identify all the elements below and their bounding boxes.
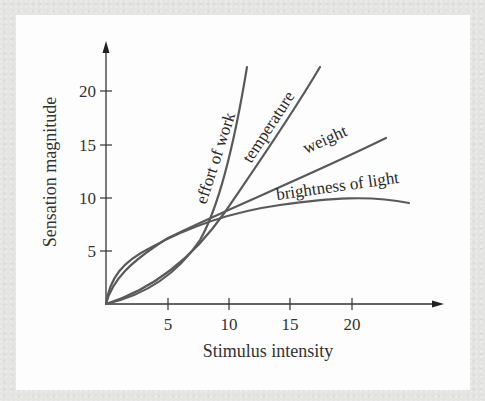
label-temperature: temperature <box>238 88 298 166</box>
curve-weight <box>106 138 386 304</box>
y-tick-label: 15 <box>79 136 96 155</box>
x-tick-label: 15 <box>282 315 299 334</box>
y-axis-arrow-icon <box>103 41 110 53</box>
y-tick-label: 5 <box>88 242 97 261</box>
x-axis-arrow-icon <box>432 301 444 308</box>
label-weight: weight <box>300 121 350 157</box>
x-tick-label: 10 <box>221 315 238 334</box>
curve-brightness-of-light <box>106 198 409 304</box>
x-tick-label: 20 <box>344 315 361 334</box>
x-axis-title: Stimulus intensity <box>203 341 334 361</box>
chart: 5 10 15 20 5 10 15 20 Stimulus intensity… <box>0 0 485 401</box>
y-tick-label: 10 <box>79 189 96 208</box>
x-tick-label: 5 <box>164 315 173 334</box>
y-axis-title: Sensation magnitude <box>40 97 60 247</box>
label-effort-of-work: effort of work <box>192 109 240 206</box>
y-tick-label: 20 <box>79 82 96 101</box>
